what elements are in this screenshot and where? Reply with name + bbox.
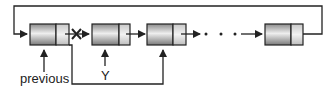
ellipsis <box>205 33 237 36</box>
node-next <box>147 24 186 45</box>
node-previous <box>30 24 69 45</box>
bypass-link <box>69 45 163 84</box>
y-label: Y <box>101 68 110 83</box>
linked-list-diagram: previous Y <box>0 0 334 97</box>
node-last <box>265 24 303 45</box>
previous-label: previous <box>20 71 70 86</box>
node-y <box>92 24 130 45</box>
